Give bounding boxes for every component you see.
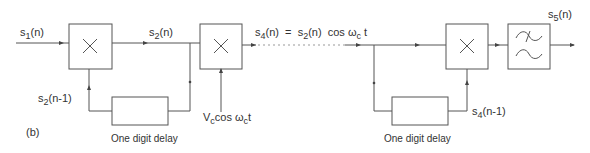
- delay-2-box: [392, 97, 448, 125]
- label-s4-equation: s4(n) = s2(n) cos ωc t: [255, 26, 367, 42]
- delay-1-box: [112, 97, 168, 125]
- label-s4-delayed: s4(n-1): [472, 105, 506, 121]
- filter-wave-lower: [516, 50, 542, 59]
- block-diagram: [0, 0, 590, 153]
- label-carrier: Vccos ωct: [203, 111, 251, 127]
- label-s5: s5(n): [548, 8, 572, 24]
- label-s1: s1(n): [20, 26, 44, 42]
- delay-1-caption: One digit delay: [111, 133, 178, 145]
- low-pass-filter-box: [508, 24, 550, 69]
- figure-label: (b): [26, 126, 39, 138]
- delay-2-caption: One digit delay: [384, 133, 451, 145]
- label-s2-delayed: s2(n-1): [38, 92, 72, 108]
- label-s2: s2(n): [149, 26, 173, 42]
